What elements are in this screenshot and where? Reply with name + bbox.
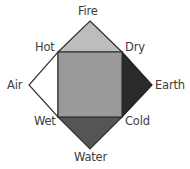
label-wet: Wet (34, 115, 56, 127)
air-triangle (29, 52, 58, 117)
elements-diagram: Fire Air Earth Water Hot Dry Wet Cold (0, 0, 190, 169)
label-air: Air (7, 79, 22, 91)
fire-triangle (58, 21, 122, 52)
label-hot: Hot (35, 41, 55, 53)
label-cold: Cold (125, 115, 150, 127)
label-earth: Earth (155, 79, 185, 91)
label-water: Water (74, 151, 107, 163)
center-square (58, 52, 122, 117)
earth-triangle (122, 52, 152, 117)
label-dry: Dry (125, 41, 145, 53)
water-triangle (58, 117, 122, 149)
label-fire: Fire (78, 5, 98, 17)
